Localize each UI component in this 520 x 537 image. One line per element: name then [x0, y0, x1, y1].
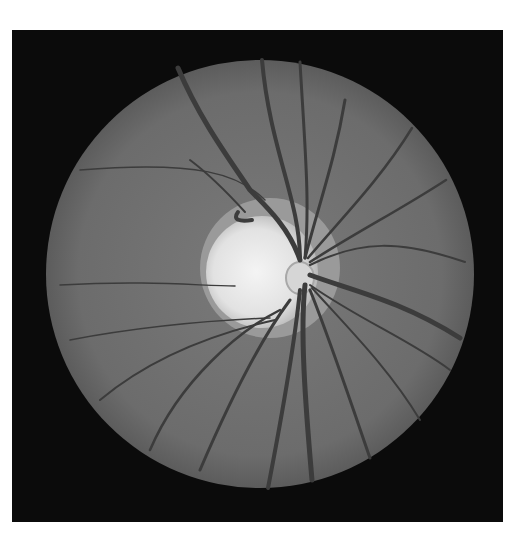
fundus-image — [0, 0, 520, 537]
